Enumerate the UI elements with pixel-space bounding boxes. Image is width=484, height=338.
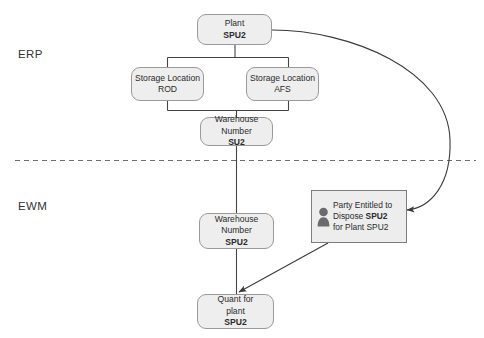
- zone-label-erp: ERP: [18, 48, 43, 60]
- edge-plant-to-storage-locations: [168, 45, 289, 67]
- node-storage-location-rod[interactable]: Storage Location ROD: [131, 67, 204, 101]
- edge-party-entitled-to-quant: [239, 243, 328, 292]
- node-quant-for-plant-spu2[interactable]: Quant for plant SPU2: [197, 294, 274, 329]
- node-storage-location-afs-line-1: Storage Location: [250, 73, 315, 85]
- node-party-entitled-to-dispose[interactable]: Party Entitled to Dispose SPU2 for Plant…: [311, 190, 407, 243]
- node-warehouse-number-spu2-line-1: Warehouse: [215, 214, 259, 226]
- node-plant-line-1: Plant SPU2: [223, 18, 245, 41]
- node-storage-location-rod-line-1: Storage Location: [135, 73, 200, 85]
- zone-label-ewm: EWM: [18, 200, 47, 212]
- node-warehouse-number-spu2-line-2: Number SPU2: [215, 225, 259, 248]
- connector-layer: [0, 0, 484, 338]
- node-warehouse-number-su2-line-2: Number SU2: [215, 126, 259, 149]
- party-entitled-text: Party Entitled to Dispose SPU2 for Plant…: [331, 200, 392, 234]
- party-line-2: Dispose SPU2: [333, 211, 387, 221]
- node-warehouse-number-su2-line-1: Warehouse: [215, 114, 259, 126]
- party-line-3: for Plant SPU2: [333, 222, 388, 232]
- node-warehouse-number-spu2[interactable]: Warehouse Number SPU2: [199, 213, 274, 249]
- node-storage-location-afs[interactable]: Storage Location AFS: [246, 67, 319, 101]
- party-line-1: Party Entitled to: [333, 200, 392, 210]
- diagram-canvas: ERP EWM Plant SPU2 Storage Location ROD …: [0, 0, 484, 338]
- node-storage-location-afs-line-2: AFS: [250, 84, 315, 96]
- node-warehouse-number-su2[interactable]: Warehouse Number SU2: [200, 117, 273, 146]
- node-plant[interactable]: Plant SPU2: [197, 14, 272, 45]
- edge-plant-to-party-entitled: [272, 30, 450, 210]
- node-quant-line-2: plant SPU2: [218, 306, 254, 329]
- node-quant-line-1: Quant for: [218, 294, 254, 306]
- person-icon: [316, 207, 331, 227]
- node-storage-location-rod-line-2: ROD: [135, 84, 200, 96]
